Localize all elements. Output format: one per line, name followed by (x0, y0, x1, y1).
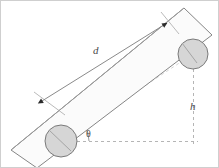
diagram-canvas: d h θ (0, 0, 219, 168)
board-top-edge-highlight (11, 8, 184, 150)
upper-wheel (178, 39, 208, 69)
extension-tick-lower (34, 92, 65, 115)
inclined-plane-figure (1, 1, 219, 168)
board-body (11, 8, 212, 168)
label-height-h: h (190, 101, 196, 112)
lower-wheel (45, 125, 77, 157)
inclined-board (11, 8, 212, 168)
label-angle-theta: θ (86, 129, 91, 139)
label-distance-d: d (93, 45, 99, 56)
